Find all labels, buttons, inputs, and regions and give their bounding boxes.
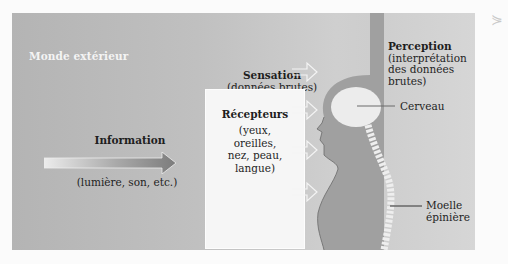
perception-label: Perception (interprétation des données b…: [388, 41, 467, 87]
perception-title: Perception: [388, 40, 452, 52]
spinal-cord-label-line-2: épinière: [426, 211, 470, 223]
diagram-frame: Monde extérieur Information (lumière, so…: [12, 13, 475, 250]
perception-line-3: brutes): [388, 76, 467, 88]
corner-mark-icon: ⋟: [491, 11, 503, 27]
brain-icon: [331, 87, 381, 127]
brain-label: Cerveau: [400, 100, 444, 112]
perception-line-2: des données: [388, 64, 467, 76]
spinal-cord-label-line-1: Moelle: [426, 199, 470, 211]
spinal-cord-label: Moelle épinière: [426, 199, 470, 223]
signal-arrows-icon: [292, 63, 317, 201]
